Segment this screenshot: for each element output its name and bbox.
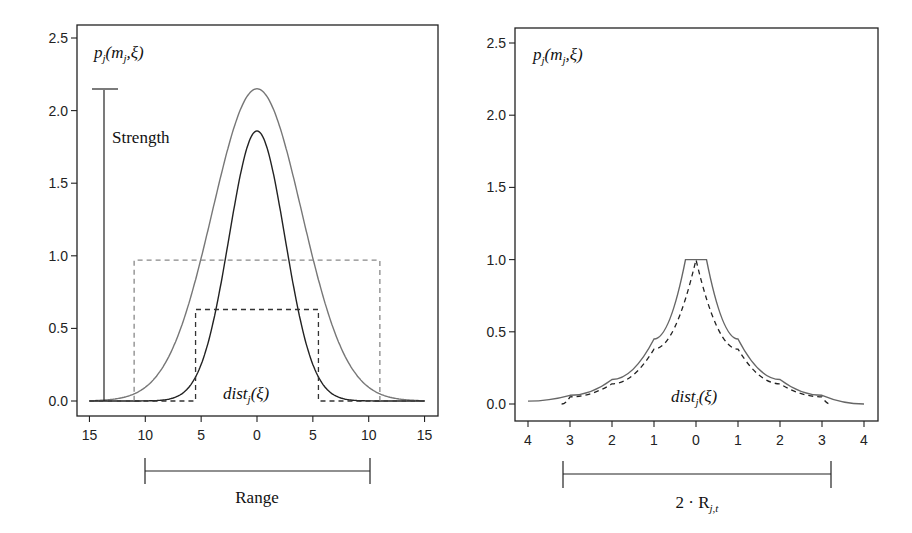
- series-line: [89, 260, 424, 401]
- left-corner-label: pj(mj,ξ): [93, 43, 144, 64]
- x-tick-label: 10: [361, 427, 377, 443]
- series-line: [528, 260, 864, 404]
- y-tick-label: 0.5: [487, 324, 507, 340]
- x-tick-label: 4: [524, 432, 532, 448]
- left-y-axis: 0.00.51.01.52.02.5: [49, 30, 77, 409]
- y-tick-label: 1.0: [49, 248, 69, 264]
- left-dist-label: distj(ξ): [223, 384, 270, 405]
- y-tick-label: 0.0: [49, 393, 69, 409]
- y-tick-label: 2.0: [49, 103, 69, 119]
- series-line: [89, 131, 424, 401]
- x-tick-label: 5: [309, 427, 317, 443]
- y-tick-label: 2.5: [487, 35, 507, 51]
- range-bracket: [145, 458, 370, 484]
- x-tick-label: 1: [734, 432, 742, 448]
- chart-figure: 0.00.51.01.52.02.5 15105051015 pj(mj,ξ) …: [0, 0, 912, 533]
- right-panel: 0.00.51.01.52.02.5 432101234 pj(mj,ξ) di…: [487, 28, 878, 514]
- x-tick-label: 15: [82, 427, 98, 443]
- right-y-axis: 0.00.51.01.52.02.5: [487, 35, 515, 412]
- x-tick-label: 5: [197, 427, 205, 443]
- y-tick-label: 1.5: [487, 179, 507, 195]
- strength-label: Strength: [112, 128, 170, 147]
- series-line: [562, 260, 831, 404]
- left-plot-frame: [77, 25, 438, 416]
- y-tick-label: 1.0: [487, 252, 507, 268]
- x-tick-label: 15: [417, 427, 433, 443]
- x-tick-label: 2: [608, 432, 616, 448]
- x-tick-label: 4: [860, 432, 868, 448]
- right-series-group: [528, 260, 864, 404]
- left-x-axis: 15105051015: [82, 416, 433, 443]
- x-tick-label: 3: [818, 432, 826, 448]
- two-r-bracket: [563, 461, 831, 488]
- x-tick-label: 0: [253, 427, 261, 443]
- range-label: Range: [235, 488, 278, 507]
- left-panel: 0.00.51.01.52.02.5 15105051015 pj(mj,ξ) …: [49, 25, 438, 507]
- x-tick-label: 1: [650, 432, 658, 448]
- right-dist-label: distj(ξ): [671, 387, 718, 408]
- right-plot-frame: [515, 28, 878, 421]
- x-tick-label: 10: [138, 427, 154, 443]
- right-corner-label: pj(mj,ξ): [532, 45, 583, 66]
- y-tick-label: 0.5: [49, 320, 69, 336]
- two-r-label: 2 · Rj,t: [676, 493, 720, 514]
- x-tick-label: 2: [776, 432, 784, 448]
- y-tick-label: 0.0: [487, 396, 507, 412]
- y-tick-label: 2.5: [49, 30, 69, 46]
- y-tick-label: 1.5: [49, 175, 69, 191]
- x-tick-label: 3: [566, 432, 574, 448]
- right-x-axis: 432101234: [524, 421, 868, 448]
- y-tick-label: 2.0: [487, 107, 507, 123]
- x-tick-label: 0: [692, 432, 700, 448]
